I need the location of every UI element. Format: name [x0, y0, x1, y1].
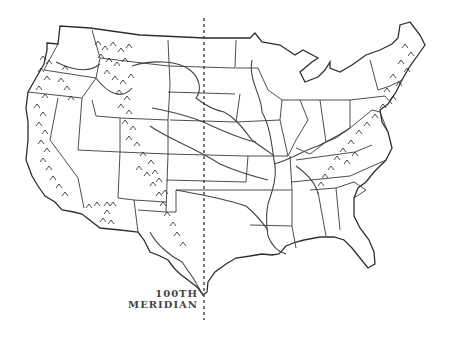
- red-river: [176, 190, 268, 230]
- rivers: [56, 60, 350, 295]
- meridian-label-line1: 100TH: [128, 288, 198, 299]
- sierra-cascade-mountains: [34, 56, 74, 196]
- meridian-label: 100TH MERIDIAN: [128, 288, 198, 310]
- us-outline: [26, 22, 425, 295]
- snake-river: [96, 78, 132, 94]
- mountain-symbols: [34, 41, 414, 246]
- rocky-mountains: [95, 41, 186, 246]
- us-map: [0, 0, 450, 342]
- meridian-label-line2: MERIDIAN: [128, 299, 198, 310]
